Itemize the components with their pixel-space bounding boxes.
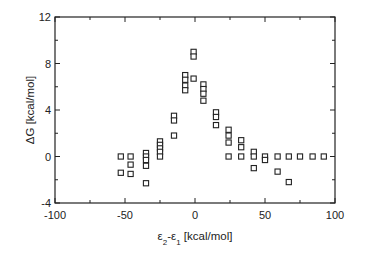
x-tick-label: -100 <box>44 209 66 221</box>
data-point-marker <box>286 154 291 159</box>
data-point-marker <box>191 54 196 59</box>
data-point-marker <box>143 157 148 162</box>
axis-ticks <box>55 17 335 203</box>
y-tick-label: 4 <box>45 104 51 116</box>
data-point-marker <box>213 114 218 119</box>
data-point-marker <box>321 154 326 159</box>
data-point-marker <box>201 98 206 103</box>
data-point-marker <box>297 154 302 159</box>
data-point-marker <box>226 140 231 145</box>
data-point-marker <box>201 91 206 96</box>
data-point-marker <box>183 88 188 93</box>
data-point-marker <box>191 76 196 81</box>
data-point-marker <box>310 154 315 159</box>
y-tick-label: -4 <box>41 197 51 209</box>
x-tick-label: 100 <box>326 209 344 221</box>
data-point-marker <box>143 181 148 186</box>
data-point-marker <box>239 138 244 143</box>
data-point-marker <box>118 154 123 159</box>
plot-border <box>55 17 335 203</box>
x-axis-label: ε2-ε1 [kcal/mol] <box>158 230 233 247</box>
data-point-marker <box>171 118 176 123</box>
data-point-marker <box>143 163 148 168</box>
plot-frame <box>55 17 335 203</box>
data-point-marker <box>128 171 133 176</box>
data-point-marker <box>226 127 231 132</box>
y-tick-label: 12 <box>39 11 51 23</box>
x-tick-label: 50 <box>259 209 271 221</box>
data-point-marker <box>183 77 188 82</box>
data-point-marker <box>251 154 256 159</box>
x-tick-label: -50 <box>117 209 133 221</box>
data-point-marker <box>213 123 218 128</box>
data-point-marker <box>239 145 244 150</box>
x-tick-label: 0 <box>192 209 198 221</box>
y-tick-label: 0 <box>45 151 51 163</box>
y-tick-label: 8 <box>45 58 51 70</box>
data-point-marker <box>226 133 231 138</box>
data-point-marker <box>262 157 267 162</box>
data-point-marker <box>128 154 133 159</box>
scatter-chart: -100-50050100-404812 ΔG [kcal/mol] ε2-ε1… <box>0 0 365 254</box>
data-point-marker <box>275 154 280 159</box>
data-point-marker <box>118 170 123 175</box>
data-point-marker <box>226 154 231 159</box>
data-point-marker <box>251 166 256 171</box>
data-point-marker <box>128 162 133 167</box>
data-points <box>118 49 326 186</box>
data-point-marker <box>171 133 176 138</box>
data-point-marker <box>275 169 280 174</box>
data-point-marker <box>157 154 162 159</box>
y-axis-label: ΔG [kcal/mol] <box>24 76 36 144</box>
axis-tick-labels: -100-50050100-404812 <box>39 11 344 221</box>
data-point-marker <box>239 154 244 159</box>
data-point-marker <box>286 179 291 184</box>
